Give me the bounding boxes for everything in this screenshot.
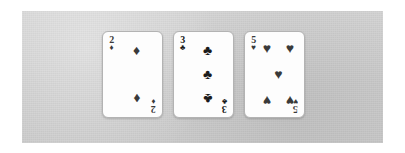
card-pip-clubs-icon: ♣ [203,68,212,82]
card-pip-diamonds-icon: ♦ [133,44,140,58]
card-pip-field: ♥♥♥♥♥ [258,36,299,113]
card-pip-hearts-icon: ♥ [263,42,271,56]
card-suit-icon: ♣ [180,44,185,51]
card-pip-clubs-icon: ♣ [203,44,212,58]
card-suit-icon: ♦ [109,44,113,51]
card-pip-diamonds-icon: ♦ [133,91,140,105]
card-pip-hearts-icon: ♥ [263,93,271,107]
card-pip-clubs-icon: ♣ [203,91,212,105]
screenshot-stage: 2♦2♦♦♦3♣3♣♣♣♣5♥5♥♥♥♥♥♥ [0,0,405,153]
card-suit-icon: ♥ [251,44,256,51]
playing-card[interactable]: 3♣3♣♣♣♣ [173,31,234,118]
card-pip-hearts-icon: ♥ [286,93,294,107]
card-pip-field: ♦♦ [116,36,157,113]
playing-card[interactable]: 2♦2♦♦♦ [102,31,163,118]
card-pip-field: ♣♣♣ [187,36,228,113]
card-hand: 2♦2♦♦♦3♣3♣♣♣♣5♥5♥♥♥♥♥♥ [102,31,305,118]
card-pip-hearts-icon: ♥ [286,42,294,56]
card-pip-hearts-icon: ♥ [274,68,282,82]
playing-card[interactable]: 5♥5♥♥♥♥♥♥ [244,31,305,118]
